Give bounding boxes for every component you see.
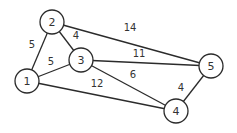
node-label: 4 <box>173 105 180 118</box>
nodes: 12345 <box>15 10 223 123</box>
edge-weight-label: 5 <box>29 39 35 50</box>
edge-weight-label: 4 <box>73 30 79 41</box>
edge-weight-label: 5 <box>48 56 54 67</box>
edge-weight-label: 6 <box>130 69 136 80</box>
node-1: 1 <box>15 69 39 93</box>
edge-weight-label: 14 <box>124 22 137 33</box>
node-4: 4 <box>164 99 188 123</box>
edges: 54514116124 <box>27 22 211 112</box>
node-label: 2 <box>49 16 56 29</box>
edge-weight-label: 12 <box>91 78 104 89</box>
node-2: 2 <box>40 10 64 34</box>
edge-weight-label: 11 <box>133 48 146 59</box>
node-label: 1 <box>24 75 31 88</box>
edge-weight-label: 4 <box>178 82 184 93</box>
node-label: 3 <box>78 54 85 67</box>
weighted-graph-diagram: 5451411612412345 <box>0 0 237 133</box>
node-5: 5 <box>199 54 223 78</box>
node-label: 5 <box>208 60 215 73</box>
node-3: 3 <box>69 48 93 72</box>
